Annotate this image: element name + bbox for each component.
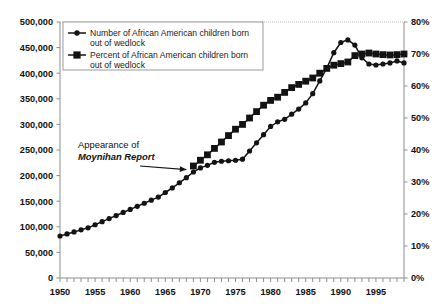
data-point-square <box>295 81 302 88</box>
data-point-circle <box>163 190 168 195</box>
circle-marker-icon <box>74 30 79 35</box>
data-point-square <box>267 97 274 104</box>
data-point-circle <box>247 148 252 153</box>
right-axis-tick-label: 20% <box>411 209 429 219</box>
data-point-circle <box>394 58 399 63</box>
data-point-circle <box>205 163 210 168</box>
left-axis-tick-label: 200,000 <box>20 171 53 181</box>
chart-legend: Number of African American children born… <box>63 22 263 70</box>
data-point-square <box>366 50 373 57</box>
chart-container: 050,000100,000150,000200,000250,000300,0… <box>0 0 447 308</box>
right-axis-tick-label: 70% <box>411 49 429 59</box>
x-axis-tick-label: 1990 <box>331 287 351 297</box>
square-marker-icon <box>73 51 80 58</box>
x-axis-tick-label: 1985 <box>295 287 315 297</box>
data-point-square <box>373 51 380 58</box>
data-point-square <box>380 51 387 58</box>
x-axis-tick-label: 1970 <box>190 287 210 297</box>
data-point-circle <box>345 37 350 42</box>
data-point-square <box>309 75 316 82</box>
data-point-circle <box>289 112 294 117</box>
legend-label-number-line1: Number of African American children born <box>90 28 249 38</box>
data-point-circle <box>177 180 182 185</box>
data-point-square <box>197 157 204 164</box>
data-point-square <box>253 108 260 115</box>
data-point-circle <box>296 106 301 111</box>
x-axis-tick-label: 1995 <box>366 287 386 297</box>
left-axis-tick-label: 0 <box>48 273 53 283</box>
right-axis-tick-label: 10% <box>411 241 429 251</box>
x-axis-tick-label: 1960 <box>120 287 140 297</box>
legend-label-percent-line1: Percent of African American children bor… <box>90 50 248 60</box>
data-point-circle <box>100 219 105 224</box>
right-axis-tick-label: 60% <box>411 81 429 91</box>
data-point-square <box>225 132 232 139</box>
data-point-square <box>302 78 309 85</box>
x-axis-tick-label: 1980 <box>260 287 280 297</box>
data-point-circle <box>184 175 189 180</box>
x-axis-tick-label: 1950 <box>50 287 70 297</box>
data-point-circle <box>373 62 378 67</box>
data-point-circle <box>317 78 322 83</box>
data-point-circle <box>114 213 119 218</box>
x-axis-tick-label: 1965 <box>155 287 175 297</box>
left-axis-tick-label: 350,000 <box>20 94 53 104</box>
data-point-square <box>190 163 197 170</box>
data-point-circle <box>401 60 406 65</box>
data-point-circle <box>254 140 259 145</box>
data-point-circle <box>275 119 280 124</box>
data-point-square <box>387 52 394 59</box>
data-point-circle <box>128 207 133 212</box>
data-point-circle <box>226 158 231 163</box>
data-point-circle <box>78 227 83 232</box>
data-point-square <box>394 51 401 58</box>
right-axis-tick-label: 40% <box>411 145 429 155</box>
data-point-circle <box>219 159 224 164</box>
data-point-circle <box>121 210 126 215</box>
data-point-circle <box>303 100 308 105</box>
data-point-circle <box>310 91 315 96</box>
data-point-circle <box>352 42 357 47</box>
data-point-circle <box>212 160 217 165</box>
legend-label-percent-line2: out of wedlock <box>90 60 146 70</box>
data-point-square <box>232 126 239 133</box>
data-point-circle <box>261 132 266 137</box>
data-point-circle <box>233 158 238 163</box>
x-axis-tick-label: 1955 <box>85 287 105 297</box>
left-axis-tick-label: 250,000 <box>20 145 53 155</box>
data-point-circle <box>156 195 161 200</box>
data-point-square <box>337 60 344 67</box>
data-point-circle <box>142 201 147 206</box>
left-axis-tick-label: 100,000 <box>20 222 53 232</box>
data-point-square <box>246 115 253 122</box>
data-point-square <box>204 151 211 158</box>
right-axis-tick-label: 30% <box>411 177 429 187</box>
left-axis-tick-label: 300,000 <box>20 120 53 130</box>
data-point-square <box>281 89 288 96</box>
data-point-circle <box>170 185 175 190</box>
legend-label-number-line2: out of wedlock <box>90 38 146 48</box>
data-point-circle <box>135 204 140 209</box>
data-point-square <box>260 102 267 109</box>
data-point-circle <box>71 229 76 234</box>
data-point-square <box>344 59 351 66</box>
left-axis-tick-label: 150,000 <box>20 197 53 207</box>
wedlock-dual-axis-line-chart: 050,000100,000150,000200,000250,000300,0… <box>0 0 447 308</box>
data-point-circle <box>93 222 98 227</box>
data-point-square <box>218 139 225 146</box>
data-point-circle <box>268 124 273 129</box>
data-point-square <box>401 51 408 58</box>
data-point-circle <box>85 225 90 230</box>
left-axis-tick-label: 400,000 <box>20 69 53 79</box>
data-point-circle <box>282 117 287 122</box>
right-axis-tick-label: 80% <box>411 17 429 27</box>
data-point-circle <box>366 61 371 66</box>
right-axis-tick-label: 0% <box>411 273 424 283</box>
data-point-square <box>211 145 218 152</box>
data-point-circle <box>191 169 196 174</box>
data-point-circle <box>240 157 245 162</box>
annotation-line-2: Moynihan Report <box>78 151 155 162</box>
data-point-square <box>239 121 246 128</box>
data-point-circle <box>198 165 203 170</box>
data-point-square <box>288 84 295 91</box>
